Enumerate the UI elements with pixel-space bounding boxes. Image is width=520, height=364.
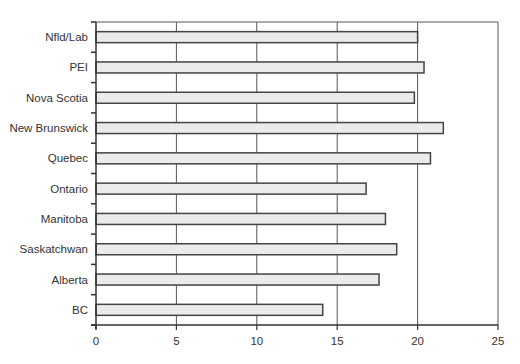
bar bbox=[96, 32, 418, 43]
category-label: Manitoba bbox=[41, 213, 89, 225]
category-label: Nfld/Lab bbox=[45, 31, 88, 43]
bar bbox=[96, 92, 414, 103]
x-tick-label: 15 bbox=[331, 335, 344, 347]
x-tick-label: 10 bbox=[250, 335, 263, 347]
bar bbox=[96, 183, 366, 194]
x-tick-label: 5 bbox=[173, 335, 179, 347]
x-tick-labels: 0510152025 bbox=[93, 335, 505, 347]
bar bbox=[96, 304, 323, 315]
bar bbox=[96, 244, 397, 255]
bar-chart: Nfld/LabPEINova ScotiaNew BrunswickQuebe… bbox=[0, 0, 520, 364]
bar bbox=[96, 274, 379, 285]
bars bbox=[96, 32, 443, 316]
category-label: PEI bbox=[69, 61, 88, 73]
category-label: Saskatchwan bbox=[20, 243, 88, 255]
bar bbox=[96, 62, 424, 73]
x-tick-label: 0 bbox=[93, 335, 99, 347]
category-label: Quebec bbox=[48, 152, 89, 164]
category-label: Ontario bbox=[50, 183, 88, 195]
bar bbox=[96, 153, 430, 164]
category-label: Nova Scotia bbox=[26, 92, 89, 104]
category-labels: Nfld/LabPEINova ScotiaNew BrunswickQuebe… bbox=[9, 31, 88, 316]
category-label: BC bbox=[72, 304, 88, 316]
category-label: Alberta bbox=[52, 274, 89, 286]
category-label: New Brunswick bbox=[9, 122, 88, 134]
x-tick-label: 25 bbox=[492, 335, 505, 347]
bar bbox=[96, 123, 443, 134]
x-tick-label: 20 bbox=[411, 335, 424, 347]
bar bbox=[96, 213, 385, 224]
